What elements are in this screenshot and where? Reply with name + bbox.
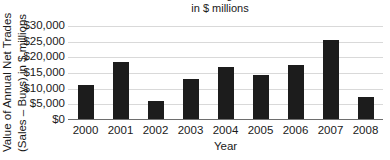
y-axis-tick-label: $15,000 [3, 67, 65, 79]
x-axis-tick-label: 2005 [241, 124, 281, 136]
chart-title: 2000 through 2008 in $ millions [70, 0, 370, 14]
bar-2001 [113, 62, 129, 119]
bar-2002 [148, 101, 164, 119]
bar-2005 [253, 75, 269, 119]
x-axis-tick-label: 2004 [206, 124, 246, 136]
bar-2007 [323, 40, 339, 119]
plot-area: $30,000$25,000$20,000$15,000$10,000$5,00… [68, 26, 383, 120]
x-axis-tick-label: 2003 [171, 124, 211, 136]
y-axis-tick-label: $25,000 [3, 36, 65, 48]
bar-2000 [78, 85, 94, 119]
x-axis-tick-label: 2007 [311, 124, 351, 136]
bar-2004 [218, 67, 234, 119]
y-axis-tick-label: $0 [3, 114, 65, 126]
bar-2008 [358, 97, 374, 119]
x-axis-line [68, 119, 383, 120]
y-axis-tick-label: $30,000 [3, 20, 65, 32]
x-axis-title: Year [68, 140, 383, 152]
bar-chart: 2000 through 2008 in $ millions Value of… [0, 0, 390, 160]
x-axis-tick-label: 2006 [276, 124, 316, 136]
chart-title-line-2: in $ millions [70, 2, 370, 15]
y-axis-tick-label: $10,000 [3, 83, 65, 95]
x-axis-tick-label: 2008 [346, 124, 386, 136]
bar-2006 [288, 65, 304, 119]
gridline [68, 26, 383, 27]
bar-2003 [183, 79, 199, 119]
y-axis-tick-label: $5,000 [3, 99, 65, 111]
x-axis-tick-label: 2000 [66, 124, 106, 136]
y-axis-tick-label: $20,000 [3, 52, 65, 64]
x-axis-tick-label: 2002 [136, 124, 176, 136]
x-axis-tick-label: 2001 [101, 124, 141, 136]
